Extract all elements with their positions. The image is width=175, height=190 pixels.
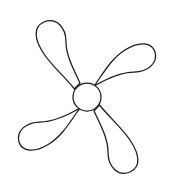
center-hub-circle [73, 83, 101, 111]
drawing-canvas [0, 0, 175, 190]
pinwheel-figure [0, 0, 175, 190]
